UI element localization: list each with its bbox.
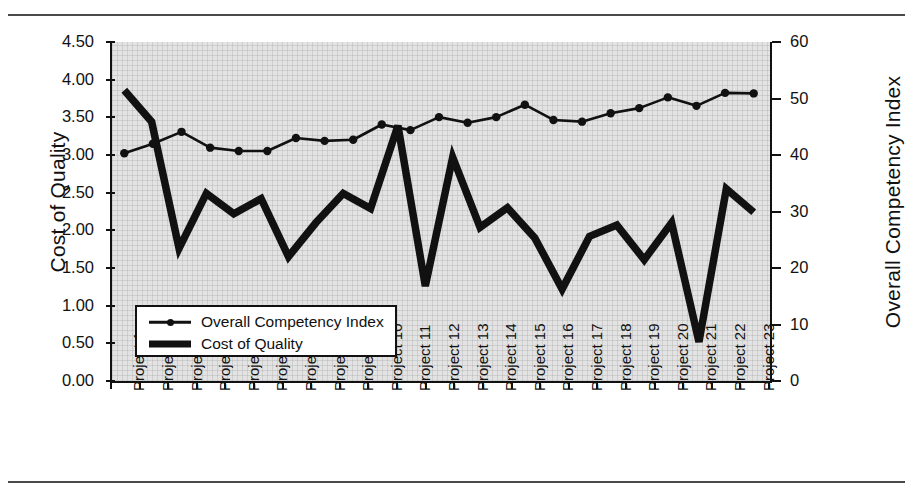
legend-thick-line-icon [147, 336, 193, 352]
series-marker [721, 89, 729, 97]
right-tick-mark [772, 267, 781, 269]
series-marker [378, 120, 386, 128]
right-tick-label: 20 [790, 258, 808, 277]
series-marker [578, 117, 586, 125]
series-marker [120, 149, 128, 157]
series-marker [406, 126, 414, 134]
figure-top-rule [8, 14, 905, 16]
series-marker [235, 147, 243, 155]
series-marker [692, 102, 700, 110]
left-tick-label: 1.50 [42, 258, 94, 277]
left-tick-label: 2.50 [42, 183, 94, 202]
legend-label-cost-of-quality: Cost of Quality [201, 335, 303, 353]
right-tick-mark [772, 98, 781, 100]
right-tick-label: 40 [790, 145, 808, 164]
right-tick-mark [772, 211, 781, 213]
series-marker [177, 128, 185, 136]
series-marker [750, 89, 758, 97]
left-tick-label: 4.00 [42, 70, 94, 89]
series-marker [463, 119, 471, 127]
legend-item-cost-of-quality: Cost of Quality [137, 333, 395, 355]
right-tick-label: 0 [790, 371, 799, 390]
series-marker [292, 134, 300, 142]
left-tick-label: 3.50 [42, 107, 94, 126]
right-tick-label: 50 [790, 89, 808, 108]
right-tick-label: 30 [790, 202, 808, 221]
chart-legend: Overall Competency Index Cost of Quality [135, 305, 397, 357]
series-marker [606, 109, 614, 117]
right-tick-label: 10 [790, 315, 808, 334]
right-tick-mark [772, 154, 781, 156]
series-marker [549, 116, 557, 124]
series-marker [635, 104, 643, 112]
series-marker [492, 113, 500, 121]
series-marker [263, 147, 271, 155]
series-marker [149, 140, 157, 148]
right-tick-label: 60 [790, 32, 808, 51]
legend-line-marker-icon [147, 314, 193, 330]
left-tick-label: 3.00 [42, 145, 94, 164]
left-tick-label: 0.00 [42, 371, 94, 390]
series-marker [206, 143, 214, 151]
series-marker [435, 113, 443, 121]
left-tick-label: 0.50 [42, 333, 94, 352]
series-marker [521, 101, 529, 109]
legend-label-overall-competency-index: Overall Competency Index [201, 313, 384, 331]
series-marker [664, 93, 672, 101]
legend-item-overall-competency-index: Overall Competency Index [137, 311, 395, 333]
right-axis-title: Overall Competency Index [881, 37, 905, 367]
x-tick-mark [110, 381, 112, 389]
left-tick-label: 4.50 [42, 32, 94, 51]
series-marker [349, 136, 357, 144]
series-line-overall-competency-index [124, 93, 753, 153]
chart-figure: Cost of Quality Overall Competency Index… [0, 0, 913, 500]
right-tick-mark [772, 41, 781, 43]
series-marker [320, 137, 328, 145]
left-tick-label: 1.00 [42, 296, 94, 315]
figure-bottom-rule [8, 481, 905, 483]
left-tick-label: 2.00 [42, 220, 94, 239]
